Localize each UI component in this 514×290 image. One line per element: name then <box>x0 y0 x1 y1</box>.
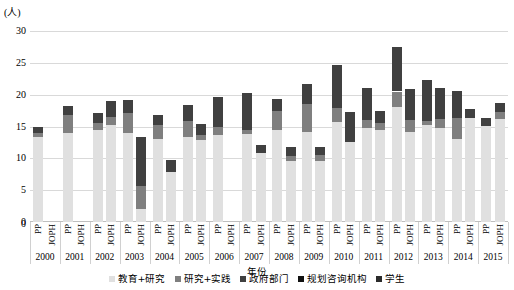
bar-2012-JOPH[interactable] <box>405 89 415 222</box>
bar-segment-1 <box>435 119 445 128</box>
x-tick-label-2008-PP: PP <box>273 224 282 234</box>
x-tick-label-2001-JOPH: JOPH <box>77 224 86 246</box>
legend-label: 研究+实践 <box>184 274 232 284</box>
stacked-bar-chart: (人) 051015202530 PPJOPHPPJOPHPPJOPHPPJOP… <box>0 0 514 290</box>
bar-segment-1 <box>362 120 372 128</box>
bar-2000-PP[interactable] <box>33 127 43 223</box>
x-axis-year-label-2001: 2001 <box>60 252 90 262</box>
bar-2006-PP[interactable] <box>213 97 223 222</box>
bar-segment-0 <box>106 125 116 222</box>
legend-label: 教育+研究 <box>118 274 166 284</box>
x-axis-year-label-2007: 2007 <box>239 252 269 262</box>
x-axis-year-label-2013: 2013 <box>418 252 448 262</box>
x-axis-year-label-2005: 2005 <box>179 252 209 262</box>
x-axis-year-label-2010: 2010 <box>329 252 359 262</box>
x-axis-year-label-2012: 2012 <box>389 252 419 262</box>
bar-segment-2 <box>242 93 252 131</box>
bar-segment-0 <box>183 137 193 222</box>
y-axis-tick-label: 30 <box>0 26 26 36</box>
bar-segment-0 <box>123 133 133 222</box>
bar-2010-JOPH[interactable] <box>345 112 355 222</box>
bar-2014-JOPH[interactable] <box>465 109 475 222</box>
legend-swatch-icon <box>240 276 246 282</box>
bar-2003-JOPH[interactable] <box>136 137 146 222</box>
bar-segment-2 <box>435 88 445 119</box>
bar-2009-JOPH[interactable] <box>315 147 325 222</box>
bar-2011-PP[interactable] <box>362 88 372 222</box>
bar-segment-0 <box>481 126 491 222</box>
x-tick-label-2015-PP: PP <box>482 224 491 234</box>
x-tick-label-2003-JOPH: JOPH <box>137 224 146 246</box>
bar-2015-PP[interactable] <box>481 118 491 222</box>
bar-segment-0 <box>465 118 475 222</box>
bar-segment-2 <box>153 115 163 125</box>
bar-segment-1 <box>272 111 282 131</box>
bar-segment-1 <box>183 121 193 138</box>
bar-segment-2 <box>465 109 475 118</box>
bar-segment-2 <box>345 112 355 143</box>
x-axis-year-label-2002: 2002 <box>90 252 120 262</box>
plot-area <box>30 31 508 222</box>
bar-segment-2 <box>332 65 342 108</box>
bar-segment-2 <box>452 91 462 118</box>
bar-2008-PP[interactable] <box>272 99 282 222</box>
bar-segment-1 <box>63 115 73 133</box>
bar-2013-PP[interactable] <box>422 80 432 222</box>
x-axis-year-label-2004: 2004 <box>150 252 180 262</box>
bar-segment-0 <box>166 172 176 222</box>
bar-segment-0 <box>495 119 505 222</box>
bar-2004-PP[interactable] <box>153 115 163 222</box>
bar-2005-PP[interactable] <box>183 105 193 222</box>
x-tick-label-2004-JOPH: JOPH <box>167 224 176 246</box>
bar-segment-0 <box>153 139 163 222</box>
bar-2003-PP[interactable] <box>123 100 133 222</box>
bar-segment-2 <box>315 147 325 155</box>
bar-segment-2 <box>422 80 432 121</box>
bar-segment-2 <box>63 106 73 115</box>
bar-segment-2 <box>166 160 176 172</box>
bar-segment-1 <box>302 104 312 132</box>
bar-2015-JOPH[interactable] <box>495 103 505 222</box>
bar-segment-0 <box>93 130 103 222</box>
bar-2007-PP[interactable] <box>242 93 252 222</box>
legend-label: 学生 <box>385 274 405 284</box>
legend-item-0[interactable]: 教育+研究 <box>109 274 166 284</box>
bars-layer <box>30 31 508 222</box>
x-tick-label-2012-PP: PP <box>393 224 402 234</box>
legend-item-4[interactable]: 学生 <box>376 274 405 284</box>
bar-segment-2 <box>33 127 43 133</box>
legend-swatch-icon <box>175 276 181 282</box>
x-tick-label-2010-JOPH: JOPH <box>346 224 355 246</box>
bar-segment-0 <box>452 139 462 222</box>
bar-segment-0 <box>272 130 282 222</box>
bar-2011-JOPH[interactable] <box>375 111 385 222</box>
bar-segment-1 <box>213 127 223 136</box>
x-axis-separator <box>508 222 509 264</box>
bar-2010-PP[interactable] <box>332 65 342 222</box>
legend-swatch-icon <box>109 276 115 282</box>
x-tick-label-2008-JOPH: JOPH <box>287 224 296 246</box>
legend-item-3[interactable]: 规划咨询机构 <box>298 274 367 284</box>
bar-2014-PP[interactable] <box>452 91 462 222</box>
bar-segment-1 <box>196 135 206 140</box>
bar-segment-0 <box>345 142 355 222</box>
bar-2009-PP[interactable] <box>302 84 312 222</box>
x-tick-label-2012-JOPH: JOPH <box>406 224 415 246</box>
bar-2013-JOPH[interactable] <box>435 88 445 222</box>
x-axis-year-label-2006: 2006 <box>209 252 239 262</box>
bar-segment-0 <box>136 209 146 222</box>
bar-2005-JOPH[interactable] <box>196 124 206 222</box>
bar-segment-0 <box>302 132 312 222</box>
bar-segment-2 <box>256 145 266 153</box>
bar-2002-PP[interactable] <box>93 113 103 223</box>
legend-item-1[interactable]: 研究+实践 <box>175 274 232 284</box>
legend-item-2[interactable]: 政府部门 <box>240 274 289 284</box>
bar-2008-JOPH[interactable] <box>286 147 296 222</box>
bar-2001-PP[interactable] <box>63 106 73 222</box>
x-tick-label-2005-JOPH: JOPH <box>197 224 206 246</box>
bar-2004-JOPH[interactable] <box>166 160 176 222</box>
bar-2002-JOPH[interactable] <box>106 101 116 222</box>
bar-2007-JOPH[interactable] <box>256 145 266 222</box>
bar-2012-PP[interactable] <box>392 47 402 222</box>
bar-segment-2 <box>123 100 133 113</box>
